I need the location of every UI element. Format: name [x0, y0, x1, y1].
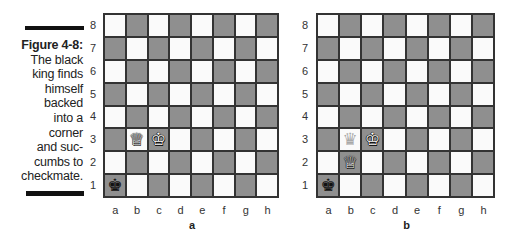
- file-label: d: [388, 204, 402, 216]
- rank-label: 1: [88, 179, 98, 191]
- board-sublabel: b: [400, 219, 414, 231]
- square-d4: [383, 106, 405, 129]
- square-h7: [472, 37, 494, 60]
- square-b6: [126, 60, 148, 83]
- square-a5: [104, 83, 126, 106]
- square-d1: [169, 174, 191, 197]
- square-d6: [383, 60, 405, 83]
- square-c6: [361, 60, 383, 83]
- caption-line: cumbs to: [20, 155, 83, 170]
- caption-line: The black: [20, 53, 83, 68]
- square-b1: [126, 174, 148, 197]
- file-label: b: [344, 204, 358, 216]
- caption-line: king finds: [20, 67, 83, 82]
- rank-label: 2: [300, 156, 310, 168]
- square-d8: [169, 14, 191, 37]
- square-d5: [383, 83, 405, 106]
- square-g1: [450, 174, 472, 197]
- square-f3: [428, 128, 450, 151]
- square-g8: [450, 14, 472, 37]
- file-label: h: [476, 204, 490, 216]
- square-a1: ♚: [317, 174, 339, 197]
- square-g1: [235, 174, 257, 197]
- square-b2: [126, 151, 148, 174]
- square-f7: [213, 37, 235, 60]
- square-f2: [428, 151, 450, 174]
- square-a2: [317, 151, 339, 174]
- square-h7: [256, 37, 278, 60]
- square-e7: [406, 37, 428, 60]
- square-h6: [256, 60, 278, 83]
- square-d3: [383, 128, 405, 151]
- square-f4: [213, 106, 235, 129]
- square-b5: [339, 83, 361, 106]
- square-g4: [450, 106, 472, 129]
- square-g8: [235, 14, 257, 37]
- square-e6: [191, 60, 213, 83]
- file-label: a: [322, 204, 336, 216]
- rank-label: 5: [300, 88, 310, 100]
- square-d6: [169, 60, 191, 83]
- square-e3: [191, 128, 213, 151]
- square-e5: [406, 83, 428, 106]
- square-a4: [317, 106, 339, 129]
- caption-line: checkmate.: [20, 169, 83, 184]
- square-e3: [406, 128, 428, 151]
- square-a4: [104, 106, 126, 129]
- square-g6: [235, 60, 257, 83]
- square-a8: [317, 14, 339, 37]
- square-b5: [126, 83, 148, 106]
- square-c4: [361, 106, 383, 129]
- caption-top-rule: [25, 26, 84, 30]
- square-b7: [126, 37, 148, 60]
- square-g7: [235, 37, 257, 60]
- square-f8: [428, 14, 450, 37]
- square-a8: [104, 14, 126, 37]
- square-e1: [406, 174, 428, 197]
- square-b7: [339, 37, 361, 60]
- file-label: f: [217, 204, 231, 216]
- square-h2: [256, 151, 278, 174]
- caption-bottom-rule: [26, 191, 84, 196]
- square-a5: [317, 83, 339, 106]
- white-king-icon: ♔: [151, 131, 166, 148]
- file-label: a: [108, 204, 122, 216]
- square-g3: [235, 128, 257, 151]
- square-a3: [104, 128, 126, 151]
- square-d7: [169, 37, 191, 60]
- square-h8: [472, 14, 494, 37]
- file-label: g: [454, 204, 468, 216]
- square-c3: ♔: [148, 128, 170, 151]
- file-label: f: [432, 204, 446, 216]
- rank-label: 2: [88, 156, 98, 168]
- square-e5: [191, 83, 213, 106]
- square-f8: [213, 14, 235, 37]
- square-c8: [148, 14, 170, 37]
- rank-label: 5: [88, 88, 98, 100]
- file-label: h: [261, 204, 275, 216]
- square-a2: [104, 151, 126, 174]
- rank-label: 3: [88, 133, 98, 145]
- caption-line: into a: [20, 111, 83, 126]
- square-g2: [450, 151, 472, 174]
- caption-line: and suc-: [20, 140, 83, 155]
- square-d2: [383, 151, 405, 174]
- square-h5: [256, 83, 278, 106]
- file-label: c: [152, 204, 166, 216]
- caption-line: corner: [20, 126, 83, 141]
- file-label: d: [174, 204, 188, 216]
- square-h4: [472, 106, 494, 129]
- board-grid: ♛♔♕♚: [316, 13, 495, 198]
- board-sublabel: a: [185, 219, 199, 231]
- rank-label: 4: [88, 110, 98, 122]
- square-d8: [383, 14, 405, 37]
- black-king-icon: ♚: [320, 177, 335, 194]
- square-c1: [148, 174, 170, 197]
- square-e2: [406, 151, 428, 174]
- square-e6: [406, 60, 428, 83]
- square-c1: [361, 174, 383, 197]
- square-h3: [256, 128, 278, 151]
- square-d4: [169, 106, 191, 129]
- square-f4: [428, 106, 450, 129]
- square-g7: [450, 37, 472, 60]
